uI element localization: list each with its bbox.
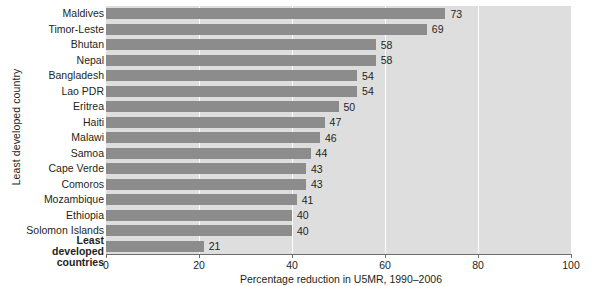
x-axis-title-text: Percentage reduction in U5MR, 1990–2006 — [240, 273, 442, 285]
category-axis-labels: MaldivesTimor-LesteBhutanNepalBangladesh… — [24, 6, 104, 254]
category-label: Samoa — [24, 148, 104, 159]
category-label: Maldives — [24, 8, 104, 19]
bar-value-label: 43 — [311, 164, 323, 175]
bar — [106, 86, 357, 97]
x-tick-mark — [292, 254, 293, 258]
x-tick-label: 40 — [286, 259, 298, 271]
bar-value-label: 43 — [311, 179, 323, 190]
bar-value-label: 73 — [450, 9, 462, 20]
bar — [106, 24, 427, 35]
x-tick-label: 20 — [193, 259, 205, 271]
bar — [106, 241, 204, 252]
category-label: Nepal — [24, 55, 104, 66]
category-label: Least developed countries — [24, 235, 104, 268]
category-label: Malawi — [24, 132, 104, 143]
bar — [106, 117, 325, 128]
bar-value-label: 41 — [302, 195, 314, 206]
bar — [106, 163, 306, 174]
bar — [106, 70, 357, 81]
y-axis-title: Least developed country — [6, 0, 26, 254]
bar — [106, 210, 292, 221]
category-label: Eritrea — [24, 101, 104, 112]
category-label: Haiti — [24, 117, 104, 128]
x-tick-mark — [106, 254, 107, 258]
x-axis-line — [106, 254, 572, 255]
x-tick-label: 80 — [472, 259, 484, 271]
x-tick-mark — [478, 254, 479, 258]
plot-area: 73695858545450474644434341404021 — [106, 6, 571, 254]
bar — [106, 55, 376, 66]
x-axis-title: Percentage reduction in U5MR, 1990–2006 — [0, 273, 602, 285]
bar-value-label: 44 — [316, 148, 328, 159]
bar-value-label: 54 — [362, 86, 374, 97]
x-tick-label: 100 — [562, 259, 580, 271]
bar — [106, 101, 339, 112]
x-tick-mark — [385, 254, 386, 258]
bar-chart: Least developed country MaldivesTimor-Le… — [0, 0, 602, 286]
bar — [106, 8, 445, 19]
bar-value-label: 58 — [381, 55, 393, 66]
bar-value-label: 47 — [330, 117, 342, 128]
bar-value-label: 21 — [209, 241, 221, 252]
bar-value-label: 58 — [381, 40, 393, 51]
bar-value-label: 46 — [325, 133, 337, 144]
bar — [106, 132, 320, 143]
x-tick-label: 0 — [103, 259, 109, 271]
gridline — [478, 6, 479, 254]
category-label: Ethiopia — [24, 210, 104, 221]
category-label: Mozambique — [24, 194, 104, 205]
x-tick-mark — [199, 254, 200, 258]
bar — [106, 194, 297, 205]
category-label: Timor-Leste — [24, 24, 104, 35]
category-label: Comoros — [24, 179, 104, 190]
bar-value-label: 54 — [362, 71, 374, 82]
bar-value-label: 40 — [297, 210, 309, 221]
category-label: Cape Verde — [24, 163, 104, 174]
bar-value-label: 69 — [432, 24, 444, 35]
bar — [106, 179, 306, 190]
category-label: Bhutan — [24, 39, 104, 50]
y-axis-title-text: Least developed country — [10, 69, 22, 186]
bar — [106, 148, 311, 159]
category-label: Lao PDR — [24, 86, 104, 97]
bar — [106, 225, 292, 236]
x-tick-mark — [571, 254, 572, 258]
x-tick-label: 60 — [379, 259, 391, 271]
bar-value-label: 50 — [344, 102, 356, 113]
bar-value-label: 40 — [297, 226, 309, 237]
category-label: Bangladesh — [24, 70, 104, 81]
bar — [106, 39, 376, 50]
